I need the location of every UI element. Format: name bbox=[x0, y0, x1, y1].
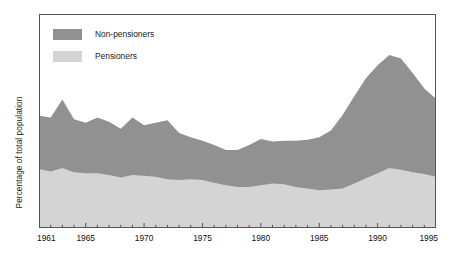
legend-swatch-non-pensioners bbox=[53, 29, 82, 40]
y-axis-label: Percentage of total population bbox=[0, 0, 36, 261]
x-tick-label-1975: 1975 bbox=[193, 233, 212, 243]
legend-swatch-pensioners bbox=[53, 51, 82, 62]
x-tick-label-1961: 1961 bbox=[37, 233, 56, 243]
y-axis-label-text: Percentage of total population bbox=[15, 97, 24, 209]
x-tick-label-1995: 1995 bbox=[419, 233, 438, 243]
x-axis-tick-labels: 19611965197019751980198519901995 bbox=[0, 233, 458, 249]
x-tick-label-1970: 1970 bbox=[135, 233, 154, 243]
x-tick-label-1980: 1980 bbox=[252, 233, 271, 243]
stacked-area-chart-figure: Percentage of total population 196119651… bbox=[0, 0, 458, 261]
legend-item-pensioners: Pensioners bbox=[53, 50, 233, 63]
x-tick-label-1985: 1985 bbox=[310, 233, 329, 243]
x-tick-label-1990: 1990 bbox=[368, 233, 387, 243]
chart-legend: Non-pensioners Pensioners bbox=[53, 28, 233, 72]
legend-label-non-pensioners: Non-pensioners bbox=[95, 29, 154, 40]
legend-item-non-pensioners: Non-pensioners bbox=[53, 28, 233, 41]
legend-label-pensioners: Pensioners bbox=[95, 51, 137, 62]
x-tick-label-1965: 1965 bbox=[76, 233, 95, 243]
